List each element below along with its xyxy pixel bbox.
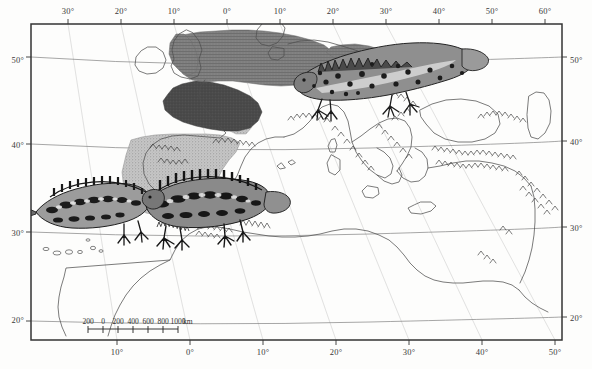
lon-tick-top-7: 40° xyxy=(433,6,446,16)
lat-tick-right-3: 20° xyxy=(570,313,583,323)
map-interior xyxy=(20,24,562,340)
scale-tick-label-0: 200 xyxy=(82,317,93,326)
lon-tick-top-6: 30° xyxy=(380,6,393,16)
lat-tick-left-0: 50° xyxy=(0,55,24,65)
lat-tick-right-0: 50° xyxy=(570,55,583,65)
scale-tick-label-4: 600 xyxy=(142,317,153,326)
lon-tick-bottom-4: 30° xyxy=(403,347,416,357)
lon-tick-top-2: 10° xyxy=(168,6,181,16)
lat-tick-left-2: 30° xyxy=(0,228,24,238)
lon-tick-top-3: 0° xyxy=(223,6,231,16)
lon-tick-top-9: 60° xyxy=(539,6,552,16)
lon-tick-bottom-6: 50° xyxy=(549,347,562,357)
lon-tick-bottom-0: 10° xyxy=(111,347,124,357)
lat-tick-left-1: 40° xyxy=(0,140,24,150)
scale-tick-label-5: 800 xyxy=(157,317,168,326)
scale-tick-label-1: 0 xyxy=(101,317,105,326)
lon-tick-top-8: 50° xyxy=(486,6,499,16)
scale-tick-label-2: 200 xyxy=(112,317,123,326)
lon-tick-top-0: 30° xyxy=(62,6,75,16)
lon-tick-bottom-3: 20° xyxy=(330,347,343,357)
scale-tick-label-3: 400 xyxy=(127,317,138,326)
lon-tick-top-4: 10° xyxy=(274,6,287,16)
distribution-map-figure: 30°20°10°0°10°20°30°40°50°60° 10°0°10°20… xyxy=(0,0,592,369)
lon-tick-top-5: 20° xyxy=(327,6,340,16)
lon-tick-bottom-1: 0° xyxy=(186,347,194,357)
lon-tick-bottom-5: 40° xyxy=(476,347,489,357)
lat-tick-right-1: 40° xyxy=(570,137,583,147)
lat-tick-right-2: 30° xyxy=(570,223,583,233)
scale-unit-label: km xyxy=(183,317,193,326)
lon-tick-top-1: 20° xyxy=(115,6,128,16)
lon-tick-bottom-2: 10° xyxy=(257,347,270,357)
lat-tick-left-3: 20° xyxy=(0,315,24,325)
map-canvas xyxy=(0,0,592,369)
